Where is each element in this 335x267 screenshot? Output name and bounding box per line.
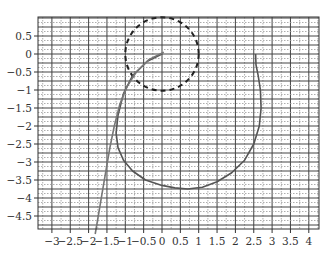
y-tick-label: −2 [17, 120, 32, 132]
x-tick-label: −1.5 [94, 235, 120, 247]
y-tick-label: −4.5 [7, 210, 33, 222]
x-tick-label: 3.5 [282, 235, 299, 247]
x-tick-label: 2.5 [245, 235, 262, 247]
y-tick-label: −1 [17, 84, 32, 96]
y-tick-label: −3 [17, 156, 32, 168]
x-tick-label: 4 [305, 235, 312, 247]
x-tick-label: 1.5 [209, 235, 226, 247]
y-tick-label: −2.5 [7, 138, 33, 150]
grid [38, 17, 319, 229]
x-tick-label: −0.5 [131, 235, 157, 247]
plot-frame [38, 17, 319, 229]
x-tick-label: 0.5 [172, 235, 189, 247]
x-axis: −3−2.5−2−1.5−1−0.500.511.522.533.54 [44, 229, 312, 247]
y-tick-label: 0 [25, 48, 32, 60]
chart: −3−2.5−2−1.5−1−0.500.511.522.533.54 0.50… [0, 0, 335, 267]
y-tick-label: −3.5 [7, 174, 33, 186]
y-axis: 0.50−0.5−1−1.5−2−2.5−3−3.5−4−4.5 [7, 30, 39, 222]
y-tick-label: 0.5 [15, 30, 32, 42]
y-tick-label: −4 [17, 192, 33, 204]
x-tick-label: 0 [159, 235, 166, 247]
x-tick-label: −2.5 [58, 235, 84, 247]
x-tick-label: 3 [269, 235, 276, 247]
x-tick-label: 2 [232, 235, 239, 247]
x-tick-label: 1 [195, 235, 202, 247]
y-tick-label: −1.5 [7, 102, 33, 114]
y-tick-label: −0.5 [7, 66, 33, 78]
